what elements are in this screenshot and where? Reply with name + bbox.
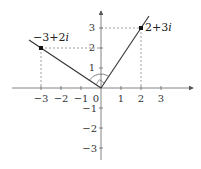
y-tick-label: −3 [82,143,97,154]
angle-arc [89,74,108,80]
y-tick-label: 1 [89,62,95,73]
y-tick-label: −2 [82,123,97,134]
y-tick-label: −1 [82,103,97,114]
complex-plane-diagram: −3 −2 −1 1 2 3 0 3 2 1 −1 −2 −3 [0,0,201,169]
y-tick-label: 3 [89,22,95,33]
y-tick-label: 2 [89,42,95,53]
diagram-canvas: −3 −2 −1 1 2 3 0 3 2 1 −1 −2 −3 [0,0,201,169]
x-tick-label: 2 [138,93,144,104]
x-tick-label: −3 [34,93,49,104]
point-label-minus-3-plus-2i: −3+2i [33,31,69,44]
x-tick-label: −2 [54,93,69,104]
point-label-2-plus-3i: 2+3i [145,21,172,34]
x-tick-label: 3 [158,93,164,104]
point-minus-3-plus-2i [39,46,43,50]
x-tick-label: 1 [118,93,124,104]
point-2-plus-3i [139,26,143,30]
